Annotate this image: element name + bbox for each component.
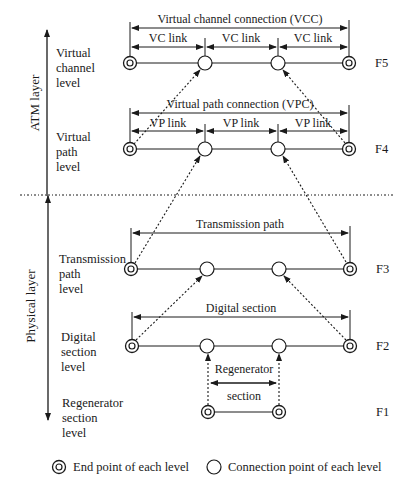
section-label: section <box>227 389 261 404</box>
end-point-icon <box>344 340 357 353</box>
atm-layer-label: ATM layer <box>27 58 43 148</box>
legend-connection-point-label: Connection point of each level <box>228 460 381 475</box>
level-label-transmission: Transmission path level <box>59 252 126 297</box>
end-point-icon <box>273 406 286 419</box>
vc-link-label-3: VC link <box>294 31 332 46</box>
vcc-span-label: Virtual channel connection (VCC) <box>158 12 323 27</box>
end-point-icon <box>51 459 67 475</box>
connection-point-icon <box>206 459 222 475</box>
end-point-icon <box>125 263 138 276</box>
row-f3 <box>125 226 357 276</box>
end-point-icon <box>343 143 356 156</box>
level-label-vp: Virtual path level <box>56 130 91 175</box>
level-label-regenerator: Regenerator section level <box>62 396 123 441</box>
level-label-digital: Digital section level <box>61 330 96 375</box>
vpc-span-label: Virtual path connection (VPC) <box>167 97 314 112</box>
connection-point-icon <box>198 56 212 70</box>
physical-layer-label: Physical layer <box>23 251 39 361</box>
connection-point-icon <box>198 142 212 156</box>
legend-end-point: End point of each level <box>51 459 189 475</box>
connection-point-icon <box>271 56 285 70</box>
connection-point-icon <box>271 142 285 156</box>
vp-link-label-2: VP link <box>223 116 260 131</box>
flow-label-f5: F5 <box>375 56 388 71</box>
transmission-path-label: Transmission path <box>196 217 284 232</box>
digital-section-label: Digital section <box>206 301 276 316</box>
flow-label-f2: F2 <box>376 339 389 354</box>
end-point-icon <box>124 57 137 70</box>
connection-point-icon <box>272 262 286 276</box>
flow-label-f3: F3 <box>376 262 389 277</box>
flow-label-f1: F1 <box>376 405 389 420</box>
legend-connection-point: Connection point of each level <box>206 459 381 475</box>
end-point-icon <box>124 143 137 156</box>
flow-label-f4: F4 <box>375 142 388 157</box>
regenerator-label: Regenerator <box>215 362 274 377</box>
vc-link-label-2: VC link <box>222 31 260 46</box>
end-point-icon <box>202 406 215 419</box>
end-point-icon <box>343 57 356 70</box>
end-point-icon <box>344 263 357 276</box>
vp-link-label-1: VP link <box>150 116 187 131</box>
vp-link-label-3: VP link <box>295 116 332 131</box>
connection-point-icon <box>200 339 214 353</box>
level-label-vc: Virtual channel level <box>56 46 95 91</box>
vc-link-label-1: VC link <box>149 31 187 46</box>
legend-end-point-label: End point of each level <box>73 460 189 475</box>
end-point-icon <box>126 340 139 353</box>
connection-point-icon <box>200 262 214 276</box>
connection-point-icon <box>272 339 286 353</box>
